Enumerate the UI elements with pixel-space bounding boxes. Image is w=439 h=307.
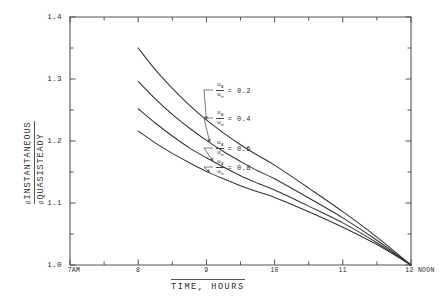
x-tick-label: 9 <box>200 267 212 274</box>
denominator-subscript: ∞ <box>221 171 224 176</box>
y-axis-title: βINSTANTANEOUS βQUASISTEADY <box>2 76 42 206</box>
x-tick-label: 12 NOON <box>401 267 438 274</box>
curve-0-4 <box>138 81 411 265</box>
velocity-ratio-value: = 0.8 <box>227 164 251 172</box>
curve-label-c06: uau∞= 0.6 <box>216 140 251 158</box>
leader-line-c02 <box>204 90 213 120</box>
fraction-numerator: ua <box>216 82 224 91</box>
velocity-ratio-fraction: uau∞ <box>216 110 224 128</box>
y-axis-title-denominator: βQUASISTEADY <box>36 133 46 204</box>
fraction-numerator: ua <box>216 140 224 149</box>
y-axis-title-numerator-text: INSTANTANEOUS <box>23 121 33 199</box>
x-axis-title: TIME, HOURS <box>171 279 245 292</box>
beta-symbol-numerator: β <box>25 199 32 204</box>
curve-0-6 <box>138 109 411 265</box>
curve-label-c02: uau∞= 0.2 <box>216 82 251 100</box>
x-tick-label: 7AM <box>64 267 85 274</box>
y-tick-label: 1.0 <box>36 261 62 269</box>
numerator-subscript: a <box>221 161 224 166</box>
annotation-leader-lines <box>204 90 213 173</box>
velocity-ratio-fraction: uau∞ <box>216 82 224 100</box>
y-axis-title-numerator: βINSTANTANEOUS <box>23 121 35 204</box>
fraction-numerator: ua <box>216 110 224 119</box>
denominator-subscript: ∞ <box>221 122 224 127</box>
velocity-ratio-value: = 0.6 <box>227 145 251 153</box>
numerator-subscript: a <box>221 84 224 89</box>
beta-symbol-denominator: β <box>38 199 45 204</box>
fraction-denominator: u∞ <box>216 168 224 176</box>
velocity-ratio-fraction: uau∞ <box>216 140 224 158</box>
x-tick-label: 8 <box>132 267 144 274</box>
velocity-ratio-fraction: uau∞ <box>216 159 224 177</box>
data-curves <box>138 48 411 265</box>
x-tick-label: 11 <box>335 267 351 274</box>
denominator-subscript: ∞ <box>221 94 224 99</box>
fraction-denominator: u∞ <box>216 119 224 127</box>
curve-label-c04: uau∞= 0.4 <box>216 110 251 128</box>
numerator-subscript: a <box>221 142 224 147</box>
fraction-denominator: u∞ <box>216 149 224 157</box>
numerator-subscript: a <box>221 112 224 117</box>
velocity-ratio-value: = 0.4 <box>227 115 251 123</box>
velocity-ratio-value: = 0.2 <box>227 87 251 95</box>
curve-label-c08: uau∞= 0.8 <box>216 159 251 177</box>
denominator-subscript: ∞ <box>221 152 224 157</box>
curve-0-2 <box>138 48 411 265</box>
curve-0-8 <box>138 131 411 265</box>
fraction-numerator: ua <box>216 159 224 168</box>
y-axis-title-denominator-text: QUASISTEADY <box>36 133 46 199</box>
y-tick-label: 1.4 <box>36 13 62 21</box>
fraction-denominator: u∞ <box>216 91 224 99</box>
x-tick-label: 10 <box>266 267 282 274</box>
